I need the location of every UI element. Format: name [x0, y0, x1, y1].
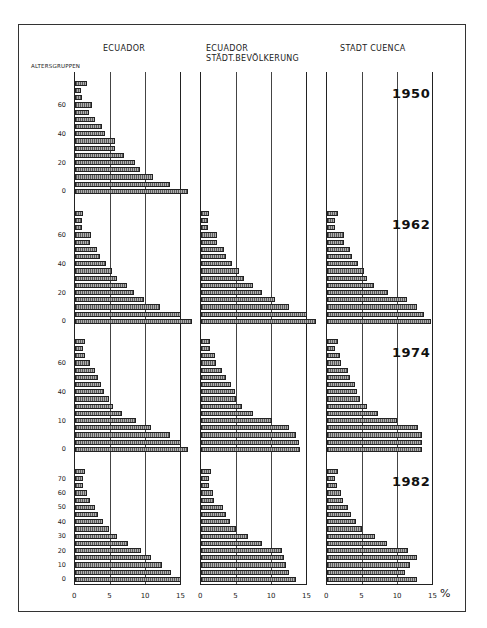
age-bar	[201, 346, 210, 351]
y-tick-label: 70	[46, 475, 66, 483]
age-bar	[75, 174, 153, 179]
panel-2-1	[200, 331, 307, 461]
age-bar	[327, 368, 348, 373]
age-bar	[75, 211, 83, 216]
age-bar	[201, 339, 210, 344]
age-bar	[75, 297, 144, 302]
age-bar	[75, 276, 117, 281]
y-tick-label: 0	[46, 187, 66, 195]
age-bar	[327, 577, 417, 582]
age-bar	[327, 240, 344, 245]
gridline	[271, 72, 272, 203]
x-tick-label: 10	[141, 592, 150, 600]
x-tick-label: 10	[267, 592, 276, 600]
age-bar	[75, 182, 170, 187]
age-bar	[75, 138, 115, 143]
age-bar	[201, 276, 244, 281]
y-tick-label: 0	[46, 575, 66, 583]
age-bar	[327, 570, 405, 575]
age-bar	[201, 541, 262, 546]
age-bar	[201, 261, 232, 266]
age-bar	[327, 339, 338, 344]
age-bar	[201, 389, 235, 394]
age-bar	[75, 146, 115, 151]
x-tick-label: 0	[324, 592, 328, 600]
x-tick-label: 15	[428, 592, 437, 600]
age-bar	[75, 447, 188, 452]
age-bar	[75, 268, 112, 273]
age-bar	[201, 404, 242, 409]
age-bar	[75, 396, 109, 401]
panel-3-0	[74, 460, 181, 585]
age-bar	[75, 312, 181, 317]
age-bar	[201, 368, 222, 373]
age-bar	[327, 353, 340, 358]
age-bar	[201, 490, 213, 495]
year-label: 1950	[392, 86, 430, 101]
age-bar	[327, 505, 348, 510]
age-bar	[75, 483, 83, 488]
age-bar	[201, 425, 289, 430]
panel-1-1	[200, 203, 307, 333]
x-tick-label: 0	[198, 592, 202, 600]
y-tick-label: 60	[46, 101, 66, 109]
age-bar	[75, 526, 109, 531]
age-bar	[327, 360, 341, 365]
age-bar	[201, 283, 253, 288]
age-bar	[75, 102, 92, 107]
age-bar	[327, 562, 410, 567]
age-bar	[201, 570, 289, 575]
age-bar	[75, 368, 95, 373]
age-bar	[75, 339, 85, 344]
age-bar	[327, 225, 335, 230]
age-bar	[201, 440, 299, 445]
age-bar	[75, 232, 91, 237]
age-bar	[327, 232, 344, 237]
age-bar	[201, 290, 262, 295]
age-bar	[327, 555, 417, 560]
age-bar	[201, 555, 284, 560]
age-bar	[327, 425, 418, 430]
age-bar	[327, 483, 337, 488]
age-bar	[75, 124, 102, 129]
age-bar	[201, 240, 217, 245]
age-bar	[201, 268, 239, 273]
age-bar	[327, 319, 431, 324]
y-tick-label: 40	[46, 388, 66, 396]
y-tick-label: 60	[46, 231, 66, 239]
age-bar	[327, 447, 422, 452]
column-title-urban-line1: ECUADOR	[206, 44, 248, 54]
age-bar	[201, 360, 216, 365]
age-bar	[327, 254, 352, 259]
column-title-urban-line2: STÄDT.BEVÖLKERUNG	[206, 54, 299, 64]
age-bar	[327, 476, 335, 481]
x-tick-label: 5	[359, 592, 363, 600]
age-bar	[75, 189, 188, 194]
age-bar	[201, 447, 300, 452]
age-bar	[201, 211, 209, 216]
x-tick-label: 5	[233, 592, 237, 600]
x-tick-label: 15	[302, 592, 311, 600]
age-bar	[327, 290, 388, 295]
age-bar	[327, 440, 422, 445]
age-bar	[75, 88, 81, 93]
age-bar	[75, 498, 90, 503]
gridline	[236, 72, 237, 203]
age-bar	[327, 382, 355, 387]
age-bar	[327, 218, 335, 223]
age-bar	[201, 247, 224, 252]
age-bar	[75, 440, 181, 445]
age-bar	[327, 268, 364, 273]
age-bar	[75, 570, 171, 575]
age-bar	[75, 375, 98, 380]
age-bar	[75, 261, 106, 266]
age-bar	[75, 389, 104, 394]
age-bar	[201, 304, 289, 309]
age-bar	[75, 117, 95, 122]
age-bar	[75, 110, 89, 115]
age-bar	[75, 131, 105, 136]
x-tick-label: 10	[393, 592, 402, 600]
age-bar	[201, 312, 307, 317]
age-bar	[327, 411, 378, 416]
age-bar	[327, 526, 362, 531]
